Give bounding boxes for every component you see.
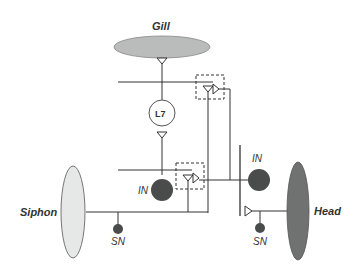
in-left-node [151,179,173,201]
in-right-label: IN [252,153,263,164]
in-right-node [248,169,270,191]
lower-presynaptic-icon [183,175,193,181]
siphon-node [61,166,85,258]
sn-right-label: SN [253,236,268,247]
lower-postsynaptic-icon [193,173,199,183]
siphon-label: Siphon [20,206,58,218]
upper-postsynaptic-icon [213,84,219,94]
gill-synapse-icon [157,58,167,64]
upper-presynaptic-icon [203,86,213,92]
circuit-svg: Gill L7 IN Siphon [0,0,358,273]
head-synapse-icon [245,206,252,216]
head-node [287,162,309,260]
neural-circuit-diagram: Gill L7 IN Siphon [0,0,358,273]
l7-label: L7 [155,109,166,119]
gill-label: Gill [152,20,171,32]
in-left-label: IN [138,185,149,196]
head-label: Head [314,205,341,217]
sn-left-node [113,224,123,234]
sn-right-node [255,223,265,233]
sn-left-label: SN [111,236,126,247]
gill-node [114,36,210,58]
l7-synapse-icon [157,132,167,138]
